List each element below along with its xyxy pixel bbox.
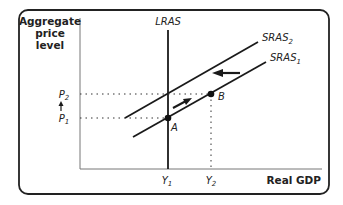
point-b-label: B xyxy=(218,91,225,102)
point-a xyxy=(165,115,172,122)
lras-label: LRAS xyxy=(155,16,181,27)
as-diagram: Aggregate price level Real GDP LRAS SRAS… xyxy=(0,0,343,205)
y-axis-label-line3: level xyxy=(36,39,64,51)
x-axis-label: Real GDP xyxy=(266,174,321,186)
y-axis-label-line1: Aggregate xyxy=(19,15,81,27)
point-a-label: A xyxy=(170,122,178,133)
point-b xyxy=(208,91,215,98)
y-axis-label-line2: price xyxy=(35,27,65,39)
